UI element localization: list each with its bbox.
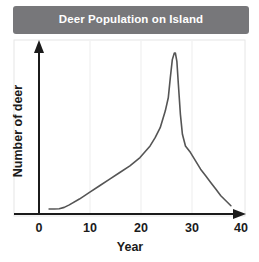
y-axis-title: Number of deer: [11, 85, 25, 178]
chart-title: Deer Population on Island: [59, 14, 203, 26]
xtick-label-20: 20: [134, 221, 148, 235]
xtick-label-30: 30: [185, 221, 199, 235]
plot-frame: [14, 40, 245, 216]
xtick-label-0: 0: [36, 221, 43, 235]
xtick-label-40: 40: [234, 221, 248, 235]
xtick-label-10: 10: [83, 221, 97, 235]
chart-title-banner: Deer Population on Island: [13, 6, 249, 34]
chart-plot-area: 0 10 20 30 40 Year Number of deer: [0, 36, 259, 262]
chart-figure: Deer Population on Island 0 10 20 30 40 …: [0, 0, 259, 262]
x-axis-title: Year: [117, 240, 144, 254]
